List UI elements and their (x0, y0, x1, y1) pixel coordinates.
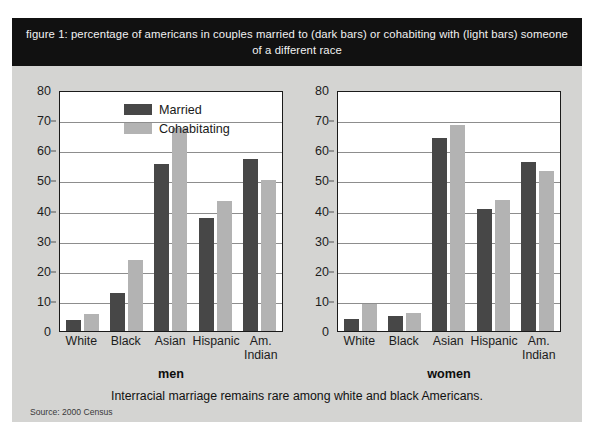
bar-cohabitating-black (128, 260, 143, 331)
bar-group (110, 260, 143, 331)
bar-cohabitating-hispanic (495, 200, 510, 331)
x-tick-label: Hispanic (193, 334, 239, 362)
legend-item-married: Married (124, 101, 230, 118)
x-tick-label: Asian (148, 334, 193, 362)
bar-married-black (110, 293, 125, 331)
bar-group (199, 201, 232, 331)
y-axis-women: 01020304050607080 (306, 91, 333, 332)
y-tick-label: 80 (37, 84, 51, 98)
y-tick-label: 30 (37, 235, 51, 249)
y-tick-label: 70 (37, 114, 51, 128)
x-tick-label: Black (104, 334, 149, 362)
bar-groups-women (338, 92, 560, 331)
bar-group (477, 200, 510, 331)
y-tick-label: 60 (315, 144, 329, 158)
chart-panel-women: 01020304050607080 WhiteBlackAsianHispani… (306, 91, 562, 377)
y-tick-mark (329, 271, 334, 272)
y-tick-label: 40 (315, 205, 329, 219)
y-tick-mark (329, 181, 334, 182)
bar-group (243, 159, 276, 331)
x-tick-label: Am.Indian (517, 334, 562, 362)
x-tick-label: Hispanic (471, 334, 517, 362)
bar-cohabitating-black (406, 313, 421, 331)
bar-cohabitating-am-indian (539, 171, 554, 331)
plot-wrapper-men: 01020304050607080 Married Cohabitating W… (28, 91, 284, 377)
y-tick-label: 30 (315, 235, 329, 249)
y-tick-label: 20 (37, 265, 51, 279)
y-tick-mark (329, 211, 334, 212)
figure-title: figure 1: percentage of americans in cou… (26, 26, 568, 58)
x-tick-label: White (59, 334, 104, 362)
bar-group (432, 125, 465, 331)
bar-group (521, 162, 554, 331)
y-tick-label: 40 (37, 205, 51, 219)
chart-legend: Married Cohabitating (124, 101, 230, 139)
bar-married-hispanic (477, 209, 492, 331)
bar-married-hispanic (199, 218, 214, 331)
legend-label-married: Married (159, 103, 202, 117)
figure-title-band: figure 1: percentage of americans in cou… (12, 18, 582, 66)
plot-area-women (337, 91, 561, 332)
plot-area-men: Married Cohabitating (59, 91, 283, 332)
y-tick-mark (329, 121, 334, 122)
legend-item-cohabitating: Cohabitating (124, 120, 230, 137)
x-axis-labels-women: WhiteBlackAsianHispanicAm.Indian (337, 334, 561, 362)
bar-cohabitating-white (84, 314, 99, 331)
y-tick-label: 0 (322, 325, 329, 339)
bar-married-am-indian (243, 159, 258, 331)
y-tick-label: 20 (315, 265, 329, 279)
bar-cohabitating-white (362, 304, 377, 331)
y-tick-mark (51, 241, 56, 242)
bar-married-white (344, 319, 359, 331)
figure-source: Source: 2000 Census (30, 407, 113, 417)
bar-cohabitating-am-indian (261, 180, 276, 331)
bar-cohabitating-asian (172, 128, 187, 331)
legend-swatch-married-icon (124, 104, 152, 115)
bar-group (344, 304, 377, 331)
legend-label-cohabitating: Cohabitating (159, 122, 230, 136)
plot-wrapper-women: 01020304050607080 WhiteBlackAsianHispani… (306, 91, 562, 377)
y-tick-mark (329, 301, 334, 302)
panel-title-women: women (337, 367, 561, 381)
bar-married-black (388, 316, 403, 331)
figure-container: figure 1: percentage of americans in cou… (12, 18, 582, 422)
y-tick-mark (51, 271, 56, 272)
y-tick-label: 0 (44, 325, 51, 339)
y-tick-label: 70 (315, 114, 329, 128)
y-tick-mark (51, 181, 56, 182)
legend-swatch-cohabitating-icon (124, 123, 152, 134)
bar-group (388, 313, 421, 331)
bar-group (66, 314, 99, 331)
y-tick-mark (51, 121, 56, 122)
bar-married-asian (154, 164, 169, 331)
bar-cohabitating-asian (450, 125, 465, 331)
y-tick-label: 50 (315, 174, 329, 188)
y-axis-men: 01020304050607080 (28, 91, 55, 332)
bar-married-am-indian (521, 162, 536, 331)
y-tick-mark (329, 151, 334, 152)
y-tick-label: 10 (37, 295, 51, 309)
y-tick-label: 80 (315, 84, 329, 98)
bar-group (154, 128, 187, 331)
y-tick-mark (51, 151, 56, 152)
bar-married-white (66, 320, 81, 331)
y-tick-mark (51, 301, 56, 302)
x-tick-label: Asian (426, 334, 471, 362)
y-tick-label: 50 (37, 174, 51, 188)
x-tick-label: Am.Indian (239, 334, 284, 362)
y-tick-mark (329, 241, 334, 242)
x-tick-label: White (337, 334, 382, 362)
y-tick-label: 60 (37, 144, 51, 158)
chart-panel-men: 01020304050607080 Married Cohabitating W… (28, 91, 284, 377)
y-tick-mark (51, 211, 56, 212)
bar-cohabitating-hispanic (217, 201, 232, 331)
figure-caption: Interracial marriage remains rare among … (12, 389, 582, 403)
bar-married-asian (432, 138, 447, 331)
y-tick-label: 10 (315, 295, 329, 309)
x-tick-label: Black (382, 334, 427, 362)
x-axis-labels-men: WhiteBlackAsianHispanicAm.Indian (59, 334, 283, 362)
panel-title-men: men (59, 367, 283, 381)
